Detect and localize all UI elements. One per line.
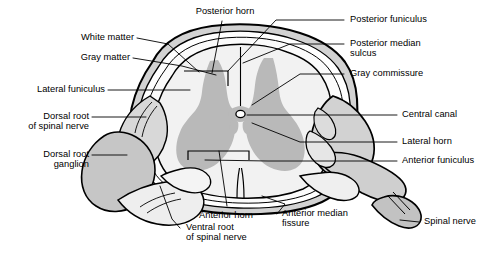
label-anterior-median-fissure-line2: fissure <box>282 218 310 229</box>
label-posterior-median-sulcus-line2: sulcus <box>350 48 376 59</box>
label-central-canal: Central canal <box>402 109 457 120</box>
label-anterior-median-fissure-line1: Anterior median <box>282 208 348 219</box>
label-posterior-median-sulcus-line1: Posterior median <box>350 38 421 49</box>
label-dorsal-root-ganglion-line2: ganglion <box>0 159 89 170</box>
label-lateral-funiculus: Lateral funiculus <box>0 84 105 95</box>
label-dorsal-root-line1: Dorsal root <box>0 111 89 122</box>
central-canal <box>236 110 245 117</box>
label-gray-matter: Gray matter <box>0 52 130 63</box>
label-gray-commissure: Gray commissure <box>350 68 423 79</box>
label-spinal-nerve: Spinal nerve <box>424 216 476 227</box>
spinal-nerve-distal <box>372 196 421 228</box>
label-posterior-funiculus: Posterior funiculus <box>350 14 427 25</box>
label-lateral-horn: Lateral horn <box>402 136 452 147</box>
label-ventral-root-line1: Ventral root <box>186 222 234 233</box>
figure-canvas: Posterior horn Posterior funiculus Poste… <box>0 0 490 257</box>
label-ventral-root-line2: of spinal nerve <box>186 232 247 243</box>
label-anterior-horn: Anterior horn <box>199 210 253 221</box>
label-white-matter: White matter <box>0 32 134 43</box>
label-dorsal-root-line2: of spinal nerve <box>0 121 89 132</box>
label-dorsal-root-ganglion-line1: Dorsal root <box>0 149 89 160</box>
label-posterior-horn: Posterior horn <box>180 6 270 17</box>
label-anterior-funiculus: Anterior funiculus <box>402 155 474 166</box>
